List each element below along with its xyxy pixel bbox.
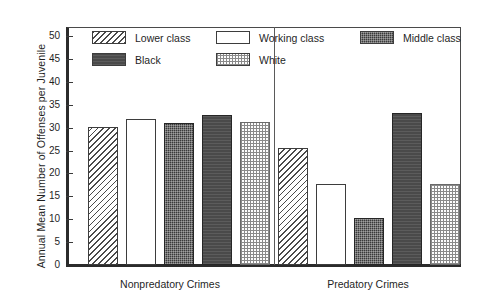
legend-label: Lower class bbox=[135, 32, 190, 44]
y-tick-mark-30 bbox=[66, 128, 73, 129]
bar-nonpredatory-crimes-white bbox=[240, 122, 270, 265]
legend-swatch-light-dots-icon bbox=[216, 53, 250, 66]
y-tick-mark-35 bbox=[66, 105, 73, 106]
y-tick-mark-20 bbox=[66, 173, 73, 174]
y-tick-label-0: 0 bbox=[38, 260, 60, 270]
y-tick-mark-45 bbox=[66, 59, 73, 60]
y-tick-label-40: 40 bbox=[38, 77, 60, 87]
y-tick-label-5: 5 bbox=[38, 237, 60, 247]
legend-item-working-class: Working class bbox=[216, 31, 324, 44]
legend-swatch-dark-solid-icon bbox=[92, 53, 126, 66]
y-tick-label-30: 30 bbox=[38, 123, 60, 133]
legend-item-white: White bbox=[216, 53, 286, 66]
legend-swatch-dark-speckle-icon bbox=[360, 31, 394, 44]
y-tick-label-20: 20 bbox=[38, 168, 60, 178]
y-tick-label-50: 50 bbox=[38, 31, 60, 41]
legend-item-lower-class: Lower class bbox=[92, 31, 190, 44]
bar-predatory-crimes-middle-class bbox=[354, 218, 384, 265]
legend-label: Black bbox=[135, 54, 161, 66]
y-tick-mark-40 bbox=[66, 82, 73, 83]
y-tick-label-35: 35 bbox=[38, 100, 60, 110]
chart-figure: Annual Mean Number of Offenses per Juven… bbox=[0, 0, 483, 306]
bar-nonpredatory-crimes-lower-class bbox=[88, 127, 118, 265]
legend: Lower classWorking classMiddle classBlac… bbox=[92, 31, 422, 75]
bar-predatory-crimes-working-class bbox=[316, 184, 346, 265]
legend-item-black: Black bbox=[92, 53, 161, 66]
legend-label: White bbox=[259, 54, 286, 66]
bar-predatory-crimes-lower-class bbox=[278, 148, 308, 265]
y-tick-label-15: 15 bbox=[38, 191, 60, 201]
bar-predatory-crimes-white bbox=[430, 184, 460, 265]
y-tick-mark-10 bbox=[66, 219, 73, 220]
y-tick-label-45: 45 bbox=[38, 54, 60, 64]
legend-label: Working class bbox=[259, 32, 324, 44]
y-axis-tick-labels: 05101520253035404550 bbox=[38, 0, 60, 306]
y-tick-label-10: 10 bbox=[38, 214, 60, 224]
y-tick-label-25: 25 bbox=[38, 146, 60, 156]
bar-nonpredatory-crimes-working-class bbox=[126, 119, 156, 265]
y-tick-mark-5 bbox=[66, 242, 73, 243]
legend-swatch-diagonal-hatch-icon bbox=[92, 31, 126, 44]
bar-nonpredatory-crimes-black bbox=[202, 115, 232, 265]
y-tick-mark-15 bbox=[66, 196, 73, 197]
x-axis-category-label-0: Nonpredatory Crimes bbox=[120, 278, 220, 290]
y-tick-mark-50 bbox=[66, 36, 73, 37]
legend-item-middle-class: Middle class bbox=[360, 31, 461, 44]
bar-nonpredatory-crimes-middle-class bbox=[164, 123, 194, 265]
legend-swatch-open-white-icon bbox=[216, 31, 250, 44]
bar-predatory-crimes-black bbox=[392, 113, 422, 265]
legend-label: Middle class bbox=[403, 32, 461, 44]
y-tick-mark-25 bbox=[66, 151, 73, 152]
x-axis-category-label-1: Predatory Crimes bbox=[327, 278, 409, 290]
